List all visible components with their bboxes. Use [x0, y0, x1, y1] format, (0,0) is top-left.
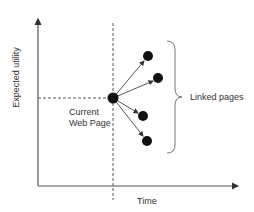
link-arrow-1 — [113, 61, 144, 98]
x-axis-label: Time — [137, 196, 157, 207]
linked-page-node — [153, 73, 163, 83]
linked-page-node — [143, 51, 153, 61]
linked-pages-label: Linked pages — [190, 92, 244, 103]
current-page-label-line2: Web Page — [69, 118, 111, 129]
link-arrow-2 — [113, 81, 153, 98]
y-axis-label: Expected utility — [11, 38, 22, 118]
current-page-label-line1: Current — [69, 107, 99, 118]
linked-pages-brace — [167, 41, 182, 153]
diagram-canvas — [0, 0, 254, 212]
current-page-node — [108, 93, 119, 104]
linked-page-node — [138, 111, 148, 121]
linked-page-node — [142, 136, 152, 146]
